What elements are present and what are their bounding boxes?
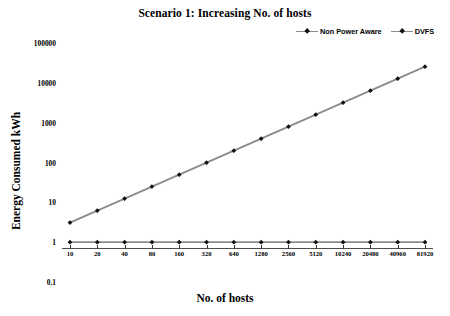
x-axis-tick-mark bbox=[316, 245, 317, 249]
x-axis-tick-label: 640 bbox=[229, 250, 239, 257]
series-marker bbox=[286, 124, 291, 129]
x-axis-tick-label: 2560 bbox=[282, 250, 295, 257]
y-axis-tick-label: 0.1 bbox=[0, 278, 56, 287]
x-axis-tick-mark bbox=[425, 245, 426, 249]
chart-container: Scenario 1: Increasing No. of hosts Non … bbox=[0, 0, 450, 316]
y-axis-tick-label: 10 bbox=[0, 198, 56, 207]
x-axis-tick-mark bbox=[343, 245, 344, 249]
series-marker bbox=[259, 136, 264, 141]
series-marker bbox=[423, 64, 428, 69]
x-axis-tick-label: 40 bbox=[121, 250, 128, 257]
series-marker bbox=[150, 184, 155, 189]
x-axis-tick-mark bbox=[370, 245, 371, 249]
series-marker bbox=[313, 112, 318, 117]
series-marker bbox=[204, 160, 209, 165]
series-layer bbox=[0, 0, 450, 316]
x-axis-tick-label: 20 bbox=[94, 250, 101, 257]
x-axis-tick-label: 20480 bbox=[362, 250, 378, 257]
x-axis-tick-mark bbox=[234, 245, 235, 249]
series-marker bbox=[341, 100, 346, 105]
x-axis-tick-label: 81920 bbox=[417, 250, 433, 257]
series-marker bbox=[95, 208, 100, 213]
y-axis-tick-label: 1 bbox=[0, 238, 56, 247]
x-axis-tick-label: 320 bbox=[202, 250, 212, 257]
x-axis-tick-mark bbox=[288, 245, 289, 249]
x-axis-tick-mark bbox=[261, 245, 262, 249]
x-axis-tick-label: 40960 bbox=[389, 250, 405, 257]
series-marker bbox=[177, 172, 182, 177]
x-axis-tick-mark bbox=[125, 245, 126, 249]
x-axis-tick-label: 80 bbox=[149, 250, 156, 257]
x-axis-tick-label: 10 bbox=[67, 250, 74, 257]
x-axis-tick-label: 10240 bbox=[335, 250, 351, 257]
series-marker bbox=[68, 220, 73, 225]
y-axis-tick-label: 1000 bbox=[0, 118, 56, 127]
y-axis-tick-label: 100000 bbox=[0, 39, 56, 48]
x-axis-tick-label: 160 bbox=[174, 250, 184, 257]
x-axis-tick-mark bbox=[398, 245, 399, 249]
x-axis-tick-mark bbox=[70, 245, 71, 249]
series-marker bbox=[395, 76, 400, 81]
series-marker bbox=[122, 196, 127, 201]
plot-area: 0.1110100100010000100000 102040801603206… bbox=[0, 0, 450, 316]
x-axis-tick-mark bbox=[152, 245, 153, 249]
y-axis-tick-label: 100 bbox=[0, 158, 56, 167]
x-axis-tick-mark bbox=[97, 245, 98, 249]
x-axis-tick-mark bbox=[207, 245, 208, 249]
x-axis-tick-label: 1280 bbox=[255, 250, 268, 257]
series-line-non-power-aware bbox=[70, 67, 425, 223]
series-marker bbox=[368, 88, 373, 93]
x-axis-tick-label: 5120 bbox=[309, 250, 322, 257]
y-axis-tick-label: 10000 bbox=[0, 78, 56, 87]
x-axis-tick-mark bbox=[179, 245, 180, 249]
series-marker bbox=[231, 148, 236, 153]
